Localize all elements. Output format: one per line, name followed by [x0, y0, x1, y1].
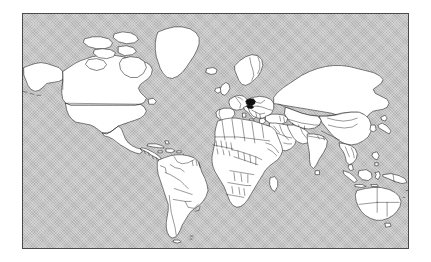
japan — [378, 115, 391, 134]
country-alaska — [24, 63, 65, 92]
china-mongolia — [319, 112, 371, 145]
sumatra — [343, 171, 357, 183]
continent-oceania — [355, 188, 408, 230]
borneo — [358, 170, 372, 181]
falkland-islands — [190, 236, 193, 239]
pacific-islands — [403, 190, 408, 197]
continent-south-america — [157, 155, 208, 243]
arctic-islands-1 — [84, 37, 113, 49]
newfoundland — [148, 98, 156, 104]
malay-peninsula — [348, 165, 353, 171]
region-north-atlantic — [155, 27, 217, 79]
highlighted-country — [246, 99, 255, 105]
world-map-figure — [0, 0, 431, 262]
greenland — [155, 27, 199, 79]
world-map-svg — [23, 14, 408, 248]
continent-europe — [215, 55, 274, 128]
jamaica — [158, 151, 162, 153]
great-britain — [220, 82, 230, 95]
ireland — [215, 87, 221, 93]
arctic-islands-4 — [119, 46, 137, 56]
tierra-del-fuego — [173, 240, 181, 243]
cuba — [147, 144, 164, 148]
central-america — [140, 148, 161, 160]
philippines — [372, 152, 379, 166]
new-guinea — [383, 174, 407, 184]
tasmania — [385, 223, 391, 227]
country-usa — [66, 103, 147, 134]
arctic-islands-2 — [114, 32, 139, 44]
madagascar — [270, 177, 278, 192]
java — [355, 185, 366, 188]
iceland — [206, 68, 217, 75]
hispaniola — [166, 149, 175, 153]
turkey-caucasus — [266, 114, 288, 124]
puerto-rico — [177, 151, 181, 153]
south-america-landmass — [157, 155, 208, 238]
africa-landmass — [212, 118, 283, 207]
continent-africa — [212, 118, 283, 207]
map-frame — [22, 13, 409, 249]
sri-lanka — [315, 171, 319, 175]
aleutian-islands — [23, 91, 41, 95]
timor — [371, 185, 378, 187]
continent-asia — [266, 66, 407, 188]
bahamas — [165, 141, 169, 144]
india — [308, 134, 328, 169]
sulawesi — [375, 172, 380, 180]
